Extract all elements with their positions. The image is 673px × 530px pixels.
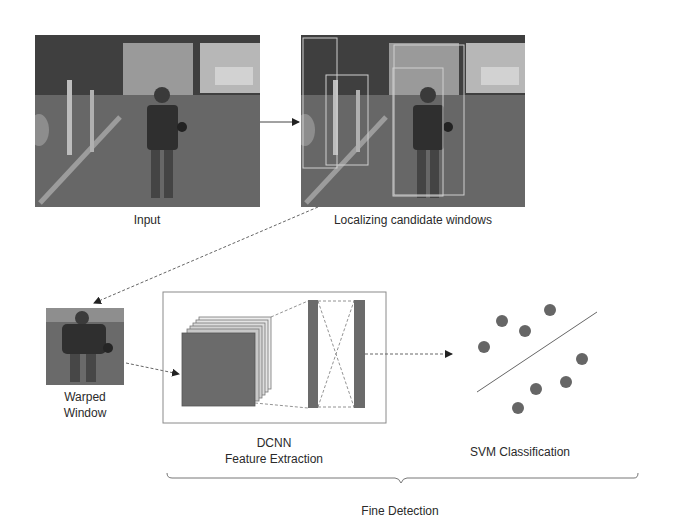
fully-connected-layers-icon — [308, 300, 365, 408]
arrow-localization-to-warped — [94, 207, 318, 303]
feature-map-stack-icon — [182, 317, 271, 406]
fine-detection-bracket — [167, 473, 638, 483]
svm-decision-boundary — [477, 312, 597, 392]
dcnn-label-line1: DCNN — [224, 435, 324, 452]
dcnn-label-line2: Feature Extraction — [204, 451, 344, 468]
fine-detection-label: Fine Detection — [350, 503, 450, 520]
svm-scatter-icon — [477, 304, 597, 414]
svm-label: SVM Classification — [450, 444, 590, 461]
arrow-warped-to-dcnn — [126, 363, 179, 374]
